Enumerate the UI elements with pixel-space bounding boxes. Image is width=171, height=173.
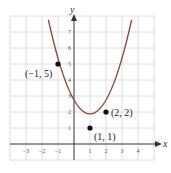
point-1-1 [87, 125, 92, 130]
point-neg1-5 [55, 61, 60, 66]
x-tick-labels: −3 −2 −1 1 2 3 4 [23, 148, 140, 154]
axes [10, 18, 158, 160]
y-tick: 2 [68, 109, 71, 115]
x-tick: 3 [121, 148, 124, 154]
x-tick: 4 [137, 148, 140, 154]
grid [10, 16, 154, 160]
x-tick: 1 [89, 148, 92, 154]
y-tick: 6 [68, 45, 71, 51]
x-tick: −1 [55, 148, 61, 154]
point-label-neg1-5: (−1, 5) [25, 68, 52, 80]
x-tick: −2 [39, 148, 45, 154]
point-2-2 [103, 109, 108, 114]
y-tick-labels: 1 2 3 4 5 6 7 [68, 29, 71, 131]
y-tick: 4 [68, 77, 71, 83]
x-tick: −3 [23, 148, 29, 154]
y-axis-label: y [69, 4, 75, 15]
x-axis-arrow-icon [155, 141, 162, 147]
y-tick: 7 [68, 29, 71, 35]
x-tick: 2 [105, 148, 108, 154]
y-tick: 1 [68, 125, 71, 131]
point-label-2-2: (2, 2) [111, 107, 133, 119]
x-axis-label: x [162, 138, 168, 149]
y-axis-arrow-icon [71, 14, 77, 21]
point-label-1-1: (1, 1) [94, 131, 116, 143]
parabola-chart: x y −3 −2 −1 1 2 3 4 1 2 3 4 5 6 7 (−1, … [0, 0, 171, 173]
y-tick: 5 [68, 61, 71, 67]
